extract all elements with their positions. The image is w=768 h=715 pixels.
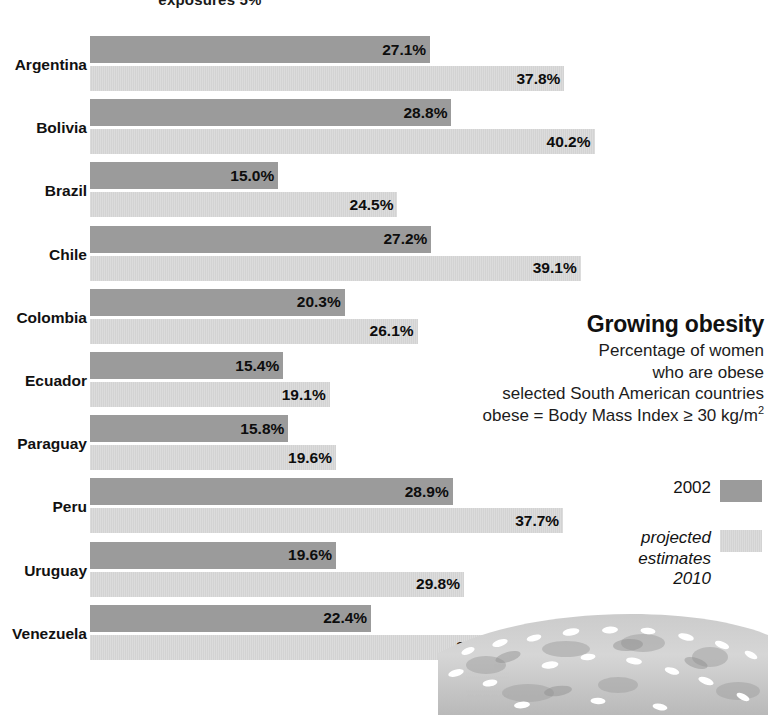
bar-2002-bolivia: 28.8% [90, 99, 451, 126]
country-label-colombia: Colombia [0, 309, 87, 327]
bar-2002-ecuador: 15.4% [90, 352, 283, 379]
country-label-paraguay: Paraguay [0, 435, 87, 453]
bar-value-2010-uruguay: 29.8% [416, 575, 460, 593]
legend-item-2010: projected estimates 2010 [562, 528, 762, 590]
bar-value-2010-paraguay: 19.6% [288, 449, 332, 467]
bar-value-2002-argentina: 27.1% [382, 41, 426, 59]
bar-2002-peru: 28.9% [90, 478, 453, 505]
bar-value-2010-colombia: 26.1% [370, 322, 414, 340]
bar-2010-chile: 39.1% [90, 256, 581, 281]
chart-legend: 2002 projected estimates 2010 [562, 478, 762, 590]
bar-2002-uruguay: 19.6% [90, 542, 336, 569]
caption-definition-text: obese = Body Mass Index ≥ 30 kg/m [483, 406, 758, 425]
bar-value-2010-bolivia: 40.2% [547, 133, 591, 151]
bar-2010-paraguay: 19.6% [90, 445, 336, 470]
legend-item-2002: 2002 [562, 478, 762, 502]
caption-line-2: who are obese [434, 362, 764, 384]
bar-2010-brazil: 24.5% [90, 192, 397, 217]
bar-value-2010-argentina: 37.8% [516, 70, 560, 88]
bar-value-2010-brazil: 24.5% [350, 196, 394, 214]
dark-gray-swatch [720, 480, 762, 502]
legend-label-2010: projected estimates 2010 [638, 528, 711, 590]
bar-2010-venezuela: 33.0% [90, 635, 504, 660]
chart-caption-block: Growing obesity Percentage of women who … [434, 312, 764, 427]
country-label-venezuela: Venezuela [0, 625, 87, 643]
bar-value-2002-ecuador: 15.4% [235, 357, 279, 375]
bar-2002-argentina: 27.1% [90, 36, 430, 63]
bar-2002-colombia: 20.3% [90, 289, 345, 316]
country-label-chile: Chile [0, 246, 87, 264]
bar-value-2002-chile: 27.2% [383, 230, 427, 248]
bar-2010-ecuador: 19.1% [90, 382, 330, 407]
bar-value-2002-peru: 28.9% [405, 483, 449, 501]
bar-2002-brazil: 15.0% [90, 162, 278, 189]
bar-2010-uruguay: 29.8% [90, 572, 464, 597]
bar-value-2002-paraguay: 15.8% [240, 420, 284, 438]
legend-label-2010-line1: projected [638, 528, 711, 549]
bar-2010-colombia: 26.1% [90, 319, 418, 344]
bar-value-2010-chile: 39.1% [533, 259, 577, 277]
country-label-ecuador: Ecuador [0, 372, 87, 390]
bar-value-2002-brazil: 15.0% [230, 167, 274, 185]
bar-2002-venezuela: 22.4% [90, 605, 371, 632]
bar-2010-argentina: 37.8% [90, 66, 564, 91]
caption-definition: obese = Body Mass Index ≥ 30 kg/m2 [434, 405, 764, 427]
bar-value-2010-ecuador: 19.1% [282, 386, 326, 404]
bar-2010-peru: 37.7% [90, 508, 563, 533]
bar-value-2010-peru: 37.7% [515, 512, 559, 530]
country-label-peru: Peru [0, 498, 87, 516]
legend-label-2010-line2: estimates [638, 549, 711, 570]
caption-definition-exponent: 2 [758, 404, 764, 416]
country-label-argentina: Argentina [0, 56, 87, 74]
bar-2002-chile: 27.2% [90, 226, 431, 253]
bar-2002-paraguay: 15.8% [90, 415, 288, 442]
country-label-uruguay: Uruguay [0, 562, 87, 580]
legend-label-2002: 2002 [673, 478, 711, 499]
country-label-bolivia: Bolivia [0, 119, 87, 137]
bar-value-2010-venezuela: 33.0% [456, 638, 500, 656]
caption-title: Growing obesity [434, 312, 764, 338]
light-gray-swatch [720, 530, 762, 552]
caption-line-1: Percentage of women [434, 340, 764, 362]
legend-label-2010-line3: 2010 [638, 569, 711, 590]
caption-line-3: selected South American countries [434, 383, 764, 405]
bar-value-2002-venezuela: 22.4% [323, 609, 367, 627]
bar-2010-bolivia: 40.2% [90, 129, 595, 154]
bar-value-2002-bolivia: 28.8% [403, 104, 447, 122]
bar-value-2002-colombia: 20.3% [297, 293, 341, 311]
country-label-brazil: Brazil [0, 182, 87, 200]
bar-value-2002-uruguay: 19.6% [288, 546, 332, 564]
